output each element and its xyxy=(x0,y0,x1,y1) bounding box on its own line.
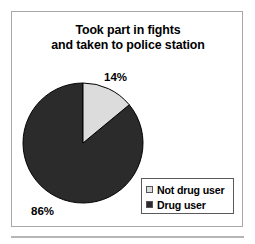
pie-chart-figure: Took part in fights and taken to police … xyxy=(0,0,255,244)
legend-label-not-drug-user: Not drug user xyxy=(157,184,225,196)
pie-slice-not-drug-user xyxy=(83,83,129,143)
bottom-divider xyxy=(11,236,244,238)
chart-frame: Took part in fights and taken to police … xyxy=(11,11,243,227)
legend-item-drug-user: Drug user xyxy=(146,197,233,212)
legend-item-not-drug-user: Not drug user xyxy=(146,182,233,197)
chart-title-line-1: Took part in fights xyxy=(12,23,244,38)
data-label-drug-user: 86% xyxy=(31,205,54,217)
legend-label-drug-user: Drug user xyxy=(157,199,206,211)
data-label-not-drug-user: 14% xyxy=(104,71,127,83)
legend-swatch-icon-not-drug-user xyxy=(146,186,153,193)
legend-swatch-icon-drug-user xyxy=(146,201,153,208)
chart-legend: Not drug user Drug user xyxy=(141,178,234,214)
chart-title-line-2: and taken to police station xyxy=(12,38,244,53)
chart-title: Took part in fights and taken to police … xyxy=(12,23,244,53)
pie-slice-drug-user xyxy=(23,83,143,203)
